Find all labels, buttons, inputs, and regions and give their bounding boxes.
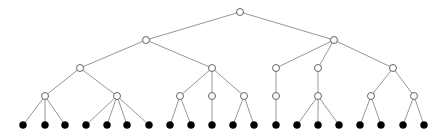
tree-edge: [146, 12, 240, 40]
leaf-node: [378, 122, 385, 129]
root-node: [237, 9, 244, 16]
internal-node: [114, 93, 121, 100]
internal-node: [143, 37, 150, 44]
leaf-node: [188, 122, 195, 129]
tree-edge: [244, 96, 254, 125]
tree-edge: [371, 96, 381, 125]
tree-edge: [146, 40, 212, 68]
tree-edge: [371, 68, 393, 96]
leaf-node: [104, 122, 111, 129]
internal-node: [273, 93, 280, 100]
internal-node: [368, 93, 375, 100]
leaf-node: [167, 122, 174, 129]
tree-edge: [403, 96, 414, 125]
internal-node: [177, 93, 184, 100]
tree-edge: [233, 96, 244, 125]
tree-edge: [360, 96, 371, 125]
tree-edge: [297, 96, 318, 125]
tree-diagram: [0, 0, 443, 135]
leaf-node: [146, 122, 153, 129]
internal-node: [209, 65, 216, 72]
leaf-node: [209, 122, 216, 129]
leaf-node: [20, 122, 27, 129]
internal-node: [315, 65, 322, 72]
tree-nodes: [20, 9, 428, 129]
tree-edge: [212, 68, 244, 96]
internal-node: [411, 93, 418, 100]
internal-node: [331, 37, 338, 44]
internal-node: [77, 65, 84, 72]
leaf-node: [357, 122, 364, 129]
internal-node: [273, 65, 280, 72]
leaf-node: [294, 122, 301, 129]
internal-node: [209, 93, 216, 100]
tree-edge: [80, 68, 117, 96]
leaf-node: [42, 122, 49, 129]
tree-edge: [45, 68, 80, 96]
internal-node: [42, 93, 49, 100]
tree-edge: [393, 68, 414, 96]
leaf-node: [273, 122, 280, 129]
leaf-node: [421, 122, 428, 129]
tree-edge: [23, 96, 45, 125]
leaf-node: [83, 122, 90, 129]
tree-edge: [80, 40, 146, 68]
tree-edge: [170, 96, 180, 125]
internal-node: [390, 65, 397, 72]
tree-edge: [240, 12, 334, 40]
internal-node: [241, 93, 248, 100]
internal-node: [315, 93, 322, 100]
leaf-node: [62, 122, 69, 129]
tree-edge: [180, 68, 212, 96]
leaf-node: [124, 122, 131, 129]
tree-edge: [414, 96, 424, 125]
leaf-node: [230, 122, 237, 129]
leaf-node: [400, 122, 407, 129]
leaf-node: [251, 122, 258, 129]
tree-edge: [334, 40, 393, 68]
leaf-node: [315, 122, 322, 129]
tree-edge: [276, 40, 334, 68]
tree-edge: [45, 96, 65, 125]
leaf-node: [336, 122, 343, 129]
tree-edge: [180, 96, 191, 125]
tree-edge: [318, 96, 339, 125]
